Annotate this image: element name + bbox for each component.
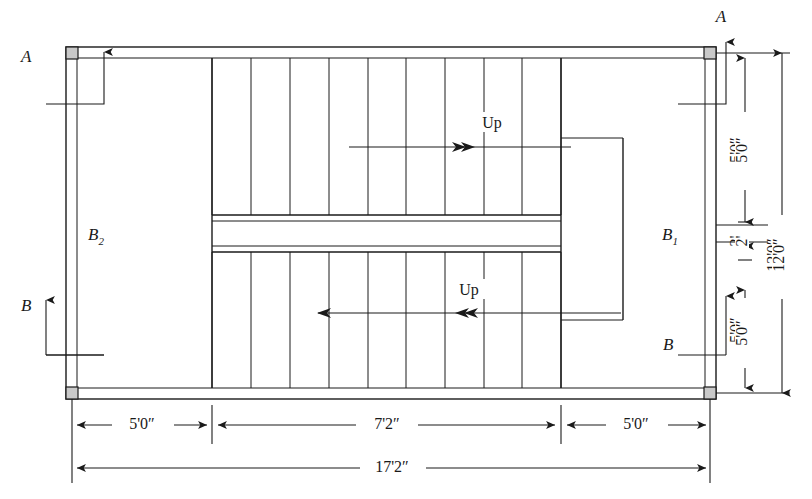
hdim-7-2-center-label-top: 7'2″ (374, 415, 400, 432)
outer-wall (66, 47, 716, 399)
stair-block (212, 58, 561, 388)
vdim-5-0-bottom-label-top: 5'0″ (733, 320, 750, 346)
up-label-lower-top: Up (459, 281, 479, 299)
up-arrow-upper-flight: Up (349, 114, 571, 152)
vdim-overall-label-top: 12'0″ (770, 238, 787, 272)
section-marker-b-bottom-left: B (21, 296, 104, 355)
up-label-upper-top: Up (482, 114, 502, 132)
svg-text:B2: B2 (88, 225, 104, 247)
section-marker-a-top-right: A (678, 7, 727, 104)
beam-b1-sub: 1 (672, 235, 678, 247)
vdim-5-0-top-label-top: 5'0″ (733, 137, 750, 163)
lower-flight-treads (212, 252, 561, 388)
beam-b2-sub: 2 (98, 235, 104, 247)
section-label-b-right: B (663, 335, 674, 354)
column-bottom-right (704, 387, 716, 399)
corner-columns (66, 47, 716, 399)
column-bottom-left (66, 387, 78, 399)
section-marker-a-top-left: A (20, 47, 104, 104)
beam-label-b1: B1 (662, 225, 678, 247)
section-label-a-right: A (715, 7, 727, 26)
hdim-5-0-left-label-top: 5'0″ (129, 415, 155, 432)
dim-text-layer: 5'0″ 2' 5'0″ 12'0″ 5'0″ 7'2″ 5'0″ 17'2″ (129, 137, 787, 475)
central-landing (212, 215, 561, 252)
beam-label-b2: B2 (88, 225, 104, 247)
stair-plan-drawing: Up Up B2 B1 A A B B (0, 0, 812, 499)
beam-b1-base: B (662, 225, 673, 244)
stair-inner-right-edge (561, 138, 623, 320)
svg-text:B1: B1 (662, 225, 678, 247)
up-label-backings: Up Up (455, 112, 508, 299)
hdim-overall-label-top: 17'2″ (375, 458, 409, 475)
dim-text-backings (112, 112, 786, 475)
column-top-left (66, 47, 78, 59)
hdim-5-0-right-label-top: 5'0″ (623, 415, 649, 432)
column-top-right (704, 47, 716, 59)
section-label-a-left: A (20, 47, 32, 66)
vdim-2ft-label-top: 2' (733, 235, 750, 246)
section-label-b-left: B (21, 296, 32, 315)
upper-flight-treads (212, 58, 561, 215)
beam-b2-base: B (88, 225, 99, 244)
